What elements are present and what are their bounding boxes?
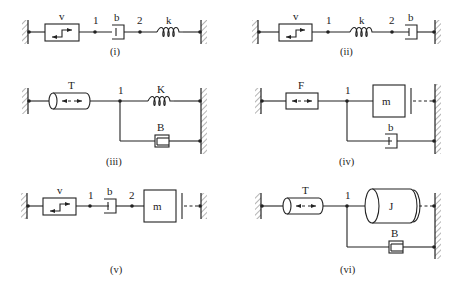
panel-ii: v 1 k 2 b (ii) [252, 10, 441, 58]
ground-right-icon [201, 193, 207, 219]
panel-caption: (v) [110, 264, 123, 276]
panel-caption: (vi) [340, 264, 356, 276]
panel-caption: (i) [110, 46, 120, 58]
ground-right-icon [435, 84, 441, 154]
spring-label: k [359, 14, 365, 26]
spring-icon [157, 28, 183, 37]
panel-i: v 1 b 2 k (i) [22, 10, 207, 58]
node1-label: 1 [345, 84, 351, 96]
torque-source-icon [49, 93, 90, 109]
torque-source-icon [283, 198, 323, 214]
ground-right-icon [435, 20, 441, 44]
damper-label: b [388, 121, 394, 133]
ground-left-icon [21, 193, 27, 219]
damper-label: B [157, 121, 164, 133]
panel-caption: (iv) [339, 156, 355, 168]
panel-iv: F 1 m b (iv) [255, 79, 441, 168]
panel-caption: (ii) [340, 46, 353, 58]
mass-label: m [382, 95, 391, 107]
ground-left-icon [22, 88, 28, 114]
velocity-source-icon [279, 24, 312, 41]
ground-left-icon [255, 88, 261, 114]
source-label: v [59, 10, 65, 22]
velocity-source-icon [45, 24, 79, 41]
ground-left-icon [255, 193, 261, 219]
node1-label: 1 [345, 189, 351, 201]
damper-label: b [114, 11, 120, 23]
ground-left-icon [252, 20, 258, 44]
damper-label: b [408, 11, 414, 23]
damper-label: B [391, 227, 398, 239]
panel-v: v 1 b 2 m (v) [21, 184, 207, 276]
panel-iii: T 1 K B (iii) [22, 79, 207, 168]
source-label: v [293, 10, 299, 22]
damper-icon [112, 25, 124, 39]
damper-icon [389, 241, 403, 253]
ground-right-icon [201, 88, 207, 154]
spring-icon [148, 97, 174, 106]
mass-label: m [153, 200, 162, 212]
node1-label: 1 [326, 14, 332, 26]
node2-label: 2 [129, 189, 135, 201]
velocity-source-icon [43, 198, 76, 215]
inertia-label: J [389, 200, 394, 212]
ground-right-icon [201, 20, 207, 44]
panel-caption: (iii) [106, 156, 122, 168]
source-label: T [302, 184, 309, 196]
force-source-icon [286, 93, 318, 109]
node1-label: 1 [118, 84, 124, 96]
node1-label: 1 [88, 189, 94, 201]
ground-left-icon [22, 20, 28, 44]
spring-label: k [166, 14, 172, 26]
damper-label: b [107, 185, 113, 197]
panel-vi: T 1 J B (vi) [255, 184, 441, 276]
mechanical-systems-figure: v 1 b 2 k (i) [0, 0, 463, 285]
ground-right-icon [435, 193, 441, 259]
node2-label: 2 [389, 14, 395, 26]
source-label: T [68, 79, 75, 91]
source-label: F [298, 79, 304, 91]
spring-icon [350, 28, 376, 37]
damper-icon [155, 135, 169, 147]
node1-label: 1 [93, 14, 99, 26]
source-label: v [57, 184, 63, 196]
spring-label: K [157, 83, 165, 95]
node2-label: 2 [137, 14, 143, 26]
